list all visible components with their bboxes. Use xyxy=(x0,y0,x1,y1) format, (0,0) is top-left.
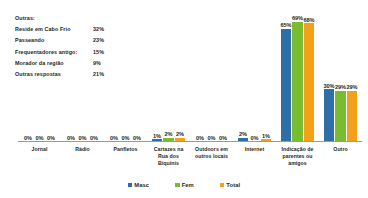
x-axis-tick-label: Outro xyxy=(319,146,362,168)
bar-group-bars: 0%0%0% xyxy=(61,8,104,141)
bar-value-label: 69% xyxy=(292,15,303,21)
bar-column[interactable]: 0% xyxy=(206,8,217,141)
bar-value-label: 68% xyxy=(304,17,315,23)
bar-value-label: 0% xyxy=(79,135,87,141)
legend-item-total[interactable]: Total xyxy=(220,182,240,188)
legend-label: Total xyxy=(226,182,240,188)
chart-legend: MascFemTotal xyxy=(0,182,368,188)
bar-column[interactable]: 2% xyxy=(163,8,174,141)
bar-value-label: 0% xyxy=(36,135,44,141)
bar-group-bars: 2%0%1% xyxy=(233,8,276,141)
x-axis-tick-label: Indicação de parentes ou amigos xyxy=(276,146,319,168)
bar-value-label: 0% xyxy=(208,135,216,141)
bar-value-label: 0% xyxy=(251,135,259,141)
bar-column[interactable]: 29% xyxy=(347,8,358,141)
legend-swatch-icon xyxy=(175,183,180,188)
bar-column[interactable]: 2% xyxy=(238,8,249,141)
bar-group: 65%69%68% xyxy=(276,8,319,141)
bar-group-bars: 0%0%0% xyxy=(190,8,233,141)
bar-group: 1%2%2% xyxy=(147,8,190,141)
bar-masc[interactable] xyxy=(324,89,335,141)
bar-fem[interactable] xyxy=(335,91,346,141)
bar-column[interactable]: 2% xyxy=(175,8,186,141)
bar-masc[interactable] xyxy=(281,29,292,141)
bar-value-label: 0% xyxy=(90,135,98,141)
bar-column[interactable]: 0% xyxy=(109,8,120,141)
bar-group: 0%0%0% xyxy=(104,8,147,141)
bar-fem[interactable] xyxy=(292,22,303,141)
bar-column[interactable]: 0% xyxy=(218,8,229,141)
bar-group-bars: 1%2%2% xyxy=(147,8,190,141)
bar-value-label: 65% xyxy=(281,22,292,28)
bar-groups: 0%0%0%0%0%0%0%0%0%1%2%2%0%0%0%2%0%1%65%6… xyxy=(18,8,362,141)
bar-group: 2%0%1% xyxy=(233,8,276,141)
x-axis-tick-label: Cartazes na Rua dos Biquínis xyxy=(147,146,190,168)
bar-value-label: 2% xyxy=(239,131,247,137)
x-axis-tick-label: Outdoors em outros locais xyxy=(190,146,233,168)
bar-group: 0%0%0% xyxy=(190,8,233,141)
bar-column[interactable]: 0% xyxy=(34,8,45,141)
bar-value-label: 30% xyxy=(324,83,335,89)
x-axis-tick-label: Rádio xyxy=(61,146,104,168)
bar-value-label: 0% xyxy=(196,135,204,141)
bar-value-label: 29% xyxy=(347,84,358,90)
bar-value-label: 0% xyxy=(219,135,227,141)
bar-total[interactable] xyxy=(347,91,358,141)
legend-item-masc[interactable]: Masc xyxy=(128,182,149,188)
bar-column[interactable]: 65% xyxy=(281,8,292,141)
bar-column[interactable]: 1% xyxy=(152,8,163,141)
bar-value-label: 0% xyxy=(110,135,118,141)
bar-value-label: 0% xyxy=(47,135,55,141)
bar-value-label: 0% xyxy=(24,135,32,141)
legend-swatch-icon xyxy=(220,183,225,188)
bar-column[interactable]: 0% xyxy=(120,8,131,141)
bar-value-label: 1% xyxy=(153,133,161,139)
bar-group-bars: 65%69%68% xyxy=(276,8,319,141)
x-axis-tick-labels: JornalRádioPanfletosCartazes na Rua dos … xyxy=(18,146,362,168)
plot-area: 0%0%0%0%0%0%0%0%0%1%2%2%0%0%0%2%0%1%65%6… xyxy=(18,8,362,142)
bar-column[interactable]: 68% xyxy=(304,8,315,141)
bar-value-label: 0% xyxy=(133,135,141,141)
bar-value-label: 29% xyxy=(335,84,346,90)
bar-group: 0%0%0% xyxy=(18,8,61,141)
chart-root: Outras: Reside em Cabo Frio32%Passeando2… xyxy=(0,0,368,198)
bar-total[interactable] xyxy=(304,23,315,141)
x-axis-tick-label: Internet xyxy=(233,146,276,168)
bar-group-bars: 30%29%29% xyxy=(319,8,362,141)
bar-column[interactable]: 30% xyxy=(324,8,335,141)
x-axis-tick-label: Panfletos xyxy=(104,146,147,168)
bar-value-label: 2% xyxy=(176,131,184,137)
bar-column[interactable]: 0% xyxy=(77,8,88,141)
bar-value-label: 0% xyxy=(122,135,130,141)
bar-group-bars: 0%0%0% xyxy=(104,8,147,141)
bar-group: 30%29%29% xyxy=(319,8,362,141)
bar-column[interactable]: 0% xyxy=(195,8,206,141)
x-axis-tick-label: Jornal xyxy=(18,146,61,168)
legend-item-fem[interactable]: Fem xyxy=(175,182,194,188)
legend-label: Fem xyxy=(182,182,194,188)
bar-column[interactable]: 0% xyxy=(132,8,143,141)
bar-column[interactable]: 0% xyxy=(249,8,260,141)
bar-value-label: 0% xyxy=(67,135,75,141)
bar-column[interactable]: 0% xyxy=(66,8,77,141)
bar-group-bars: 0%0%0% xyxy=(18,8,61,141)
bar-group: 0%0%0% xyxy=(61,8,104,141)
bar-column[interactable]: 0% xyxy=(23,8,34,141)
bar-column[interactable]: 0% xyxy=(46,8,57,141)
bar-value-label: 2% xyxy=(165,131,173,137)
bar-column[interactable]: 0% xyxy=(89,8,100,141)
legend-swatch-icon xyxy=(128,183,133,188)
x-axis-line xyxy=(18,141,362,142)
bar-value-label: 1% xyxy=(262,133,270,139)
bar-column[interactable]: 1% xyxy=(261,8,272,141)
bar-column[interactable]: 69% xyxy=(292,8,303,141)
bar-column[interactable]: 29% xyxy=(335,8,346,141)
legend-label: Masc xyxy=(134,182,149,188)
